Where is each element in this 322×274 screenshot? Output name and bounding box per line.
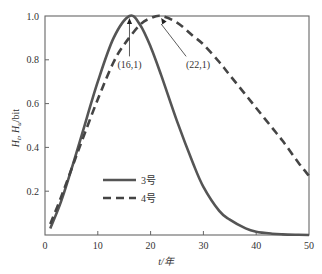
annotation-label: (22,1) — [186, 59, 210, 71]
y-axis-label: Ht, Hu/bit — [10, 109, 23, 148]
x-tick-label: 40 — [251, 240, 261, 251]
y-tick-label: 1.0 — [27, 11, 40, 22]
y-tick-label: 0.4 — [27, 142, 40, 153]
chart: 01020304050 0.20.40.60.81.0 (16,1)(22,1)… — [0, 0, 322, 274]
annotations: (16,1)(22,1) — [117, 18, 210, 71]
x-tick-label: 20 — [146, 240, 156, 251]
annotation-label: (16,1) — [117, 59, 141, 71]
x-axis-label: t/年 — [158, 256, 175, 267]
annotation-leader — [161, 24, 186, 56]
legend-label-2: 4号 — [141, 193, 156, 204]
y-tick-label: 0.6 — [27, 98, 40, 109]
legend: 3号4号 — [103, 175, 156, 204]
annotation-arrowhead — [161, 18, 166, 24]
x-tick-label: 0 — [43, 240, 48, 251]
x-tick-label: 30 — [198, 240, 208, 251]
annotation-arrowhead — [127, 18, 132, 24]
y-tick-label: 0.8 — [27, 54, 40, 65]
ylabel-unit: /bit — [10, 109, 21, 123]
y-axis-ticks: 0.20.40.60.81.0 — [27, 11, 50, 197]
series-line-2 — [50, 16, 309, 224]
y-tick-label: 0.2 — [27, 186, 40, 197]
x-tick-label: 10 — [93, 240, 103, 251]
legend-label-1: 3号 — [141, 175, 156, 186]
x-tick-label: 50 — [304, 240, 314, 251]
